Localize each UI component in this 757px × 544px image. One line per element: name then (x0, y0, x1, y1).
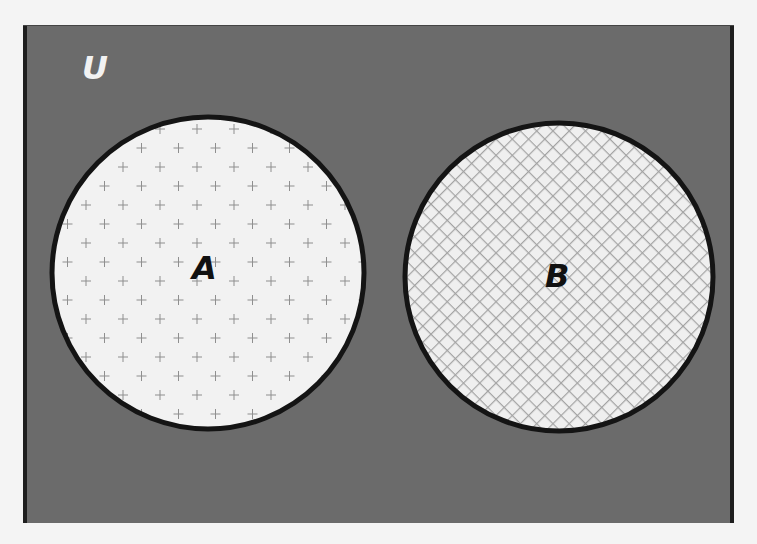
universe-top-edge (23, 25, 734, 26)
set-a-label: A (189, 249, 217, 287)
universe-right-edge (730, 25, 734, 523)
set-a: A (52, 117, 364, 429)
venn-diagram: U A B (0, 0, 757, 544)
set-b: B (405, 123, 713, 431)
universe-label: U (82, 49, 108, 87)
universe-left-edge (23, 25, 27, 523)
set-b-label: B (545, 257, 569, 295)
